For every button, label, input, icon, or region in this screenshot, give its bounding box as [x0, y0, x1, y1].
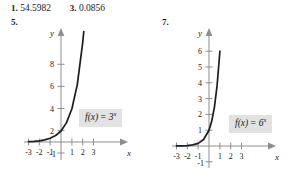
x-tick-label: 1 — [218, 152, 222, 161]
equals-sign: = — [251, 118, 257, 128]
equals-sign: = — [101, 112, 107, 122]
y-tick-label: 6 — [198, 47, 202, 56]
y-axis-arrow-icon — [58, 28, 65, 36]
x-axis-arrow-icon — [268, 143, 276, 150]
y-axis-name: y — [197, 28, 202, 38]
answer-number-3: 3. — [70, 3, 77, 13]
x-tick-label: 1 — [70, 148, 74, 157]
function-notation: f(x) — [85, 112, 98, 122]
answers-row: 1. 54.5982 3. 0.0856 — [11, 3, 105, 14]
y-tick-label: 8 — [50, 60, 54, 69]
x-tick-label: 3 — [240, 152, 244, 161]
function-exponent: x — [113, 110, 116, 117]
x-tick-label: -2 — [36, 148, 43, 157]
graph-figure-3x: -3 -2 -1 1 2 3 2 4 6 8 -1 y x — [2, 24, 147, 184]
y-negative-tick-label: -1 — [197, 159, 204, 168]
y-negative-tick-label: -1 — [49, 150, 56, 159]
y-tick-label: 2 — [198, 110, 202, 119]
function-label-6x: f(x) = 6x — [229, 115, 272, 133]
x-axis-arrow-icon — [120, 139, 128, 146]
y-axis-arrow-icon — [206, 28, 213, 36]
x-tick-label: 2 — [229, 152, 233, 161]
x-tick-label: -2 — [184, 152, 191, 161]
x-axis-name: x — [274, 152, 279, 162]
function-exponent: x — [263, 116, 266, 123]
x-tick-label: -3 — [25, 148, 32, 157]
y-tick-label: 6 — [50, 82, 54, 91]
y-tick-label: 3 — [198, 95, 202, 104]
x-tick-label: 3 — [92, 148, 96, 157]
x-axis-name: x — [126, 148, 131, 158]
answer-number-1: 1. — [11, 3, 18, 13]
exponential-curve — [29, 32, 84, 142]
answer-value-1: 54.5982 — [20, 3, 51, 13]
function-label-3x: f(x) = 3x — [79, 109, 122, 127]
y-tick-label: 1 — [198, 126, 202, 135]
y-tick-label: 4 — [50, 105, 54, 114]
y-tick-label: 5 — [198, 63, 202, 72]
x-tick-label: -3 — [173, 152, 180, 161]
answer-value-3: 0.0856 — [79, 3, 105, 13]
function-notation: f(x) — [235, 118, 248, 128]
y-axis-name: y — [49, 28, 54, 38]
x-tick-label: 2 — [81, 148, 85, 157]
y-tick-label: 4 — [198, 79, 202, 88]
graph-figure-6x: -3 -2 -1 1 2 3 1 2 3 4 5 6 -1 y x — [150, 24, 295, 184]
y-tick-label: 2 — [50, 127, 54, 136]
